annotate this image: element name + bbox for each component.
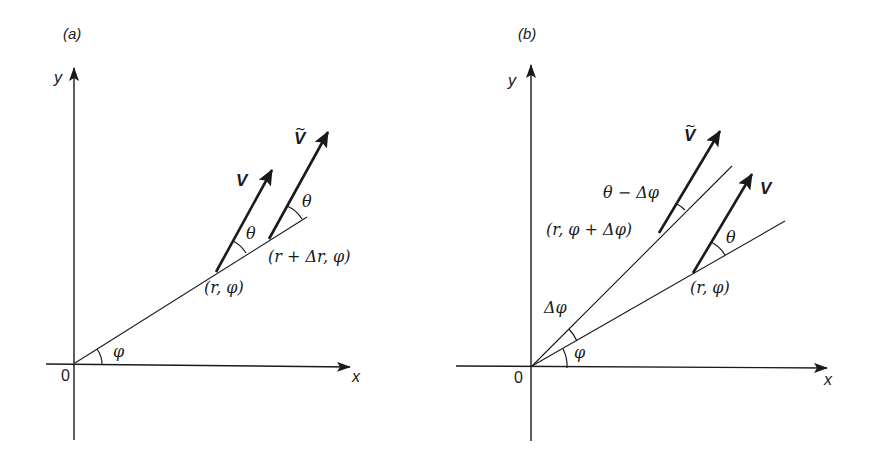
point-r-plus-dr-label: (r + Δr, φ) bbox=[268, 249, 351, 265]
point-r-phi-label: (r, φ) bbox=[690, 280, 730, 296]
delta-phi-arc bbox=[569, 329, 577, 341]
x-axis-label: x bbox=[824, 372, 832, 388]
y-axis-label: y bbox=[54, 70, 62, 86]
phi-arc bbox=[563, 349, 567, 368]
point-r-phi-plus-dphi-label: (r, φ + Δφ) bbox=[546, 222, 632, 238]
y-axis-label: y bbox=[508, 73, 516, 89]
theta-arc bbox=[711, 242, 725, 255]
theta-minus-delta-phi-label: θ − Δφ bbox=[603, 185, 659, 201]
tilde-icon: ~ bbox=[685, 118, 696, 133]
vector-v bbox=[693, 174, 752, 273]
vector-v-label: V bbox=[760, 180, 771, 197]
x-axis bbox=[46, 364, 350, 367]
delta-phi-label: Δφ bbox=[544, 300, 567, 316]
vector-v-tilde bbox=[659, 131, 720, 233]
radial-line bbox=[75, 217, 307, 363]
radial-line-lower bbox=[532, 221, 785, 366]
vector-v-tilde-label-wrap: V ~ bbox=[294, 130, 305, 148]
point-r-phi-label: (r, φ) bbox=[204, 280, 244, 296]
phi-label: φ bbox=[574, 345, 585, 361]
x-axis-label: x bbox=[352, 369, 360, 385]
origin-label: 0 bbox=[514, 370, 523, 386]
phi-arc bbox=[97, 349, 102, 365]
panel-b-label: (b) bbox=[518, 26, 536, 41]
diagram-canvas bbox=[0, 0, 878, 461]
vector-v-label: V bbox=[236, 172, 247, 189]
theta-label-1: θ bbox=[246, 226, 256, 242]
phi-label: φ bbox=[113, 344, 124, 360]
panel-b bbox=[456, 65, 827, 441]
theta-minus-arc bbox=[677, 204, 685, 210]
figure: (a) y x 0 φ V V ~ θ θ (r, φ) (r + Δr, φ)… bbox=[0, 0, 878, 461]
theta-label: θ bbox=[726, 230, 736, 246]
tilde-icon: ~ bbox=[295, 121, 306, 136]
x-axis bbox=[456, 366, 827, 368]
theta-label-2: θ bbox=[302, 194, 312, 210]
panel-a-label: (a) bbox=[63, 26, 81, 41]
theta-arc-1 bbox=[233, 241, 246, 253]
theta-arc-2 bbox=[287, 206, 302, 219]
vector-v-tilde-label-wrap: V ~ bbox=[684, 127, 695, 145]
origin-label: 0 bbox=[61, 368, 70, 384]
